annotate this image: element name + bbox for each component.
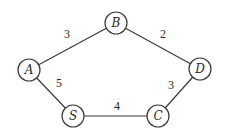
node-label: C (153, 109, 162, 123)
edge-weights: 32534 (56, 27, 174, 113)
node-s: S (62, 105, 84, 127)
node-d: D (189, 58, 211, 80)
node-label: S (69, 109, 77, 123)
edge-weight-b-d: 2 (160, 27, 166, 41)
node-label: A (24, 63, 34, 77)
edge-weight-s-c: 4 (114, 99, 120, 113)
node-b: B (105, 12, 127, 34)
edge-weight-d-c: 3 (168, 78, 174, 92)
node-c: C (147, 105, 169, 127)
edge-b-d (116, 23, 200, 69)
edge-weight-a-b: 3 (64, 27, 70, 41)
weighted-graph-diagram: ABDSC 32534 (0, 0, 227, 138)
node-a: A (18, 59, 40, 81)
node-label: B (111, 16, 121, 30)
node-label: D (194, 62, 205, 76)
edge-weight-a-s: 5 (56, 76, 62, 90)
edge-a-b (29, 23, 116, 70)
